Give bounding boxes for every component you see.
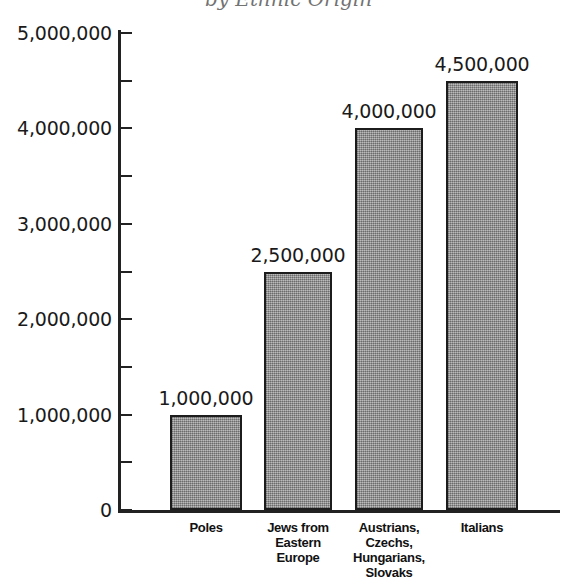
y-axis-tick-label: 1,000,000: [0, 406, 112, 425]
y-axis-major-tick: [118, 223, 132, 225]
y-axis-minor-tick: [118, 271, 132, 273]
y-axis-major-tick: [118, 509, 132, 511]
y-axis-minor-tick: [118, 80, 132, 82]
bar-group: 1,000,000: [170, 415, 242, 510]
y-axis-major-tick: [118, 414, 132, 416]
y-axis-tick-label: 3,000,000: [0, 215, 112, 234]
x-axis-line: [118, 510, 560, 513]
bar-value-label: 4,000,000: [342, 102, 437, 121]
bar-chart-figure: by Ethnic Origin 5,000,0004,000,0003,000…: [0, 0, 577, 586]
y-axis-major-tick: [118, 318, 132, 320]
bar: [264, 272, 332, 511]
x-axis-category-label-line: Czechs,: [333, 535, 445, 550]
bar-group: 4,500,000: [446, 81, 518, 510]
bar-value-label: 4,500,000: [435, 55, 530, 74]
bar: [170, 415, 242, 510]
y-axis-tick-label: 5,000,000: [0, 24, 112, 43]
bar-value-label: 1,000,000: [159, 389, 254, 408]
x-axis-category-label-line: Italians: [424, 520, 540, 535]
bar: [446, 81, 518, 510]
y-axis-tick-label: 0: [0, 501, 112, 520]
y-axis-minor-tick: [118, 175, 132, 177]
bar-group: 4,000,000: [355, 128, 423, 510]
y-axis-minor-tick: [118, 461, 132, 463]
y-axis-minor-tick: [118, 366, 132, 368]
bar-group: 2,500,000: [264, 272, 332, 511]
x-axis-category-label: Italians: [424, 520, 540, 535]
y-axis-tick-label: 2,000,000: [0, 310, 112, 329]
x-axis-category-label-line: Slovaks: [333, 565, 445, 580]
y-axis-major-tick: [118, 127, 132, 129]
x-axis-category-label-line: Hungarians,: [333, 550, 445, 565]
bar: [355, 128, 423, 510]
y-axis-labels: 5,000,0004,000,0003,000,0002,000,0001,00…: [0, 0, 112, 586]
y-axis-tick-label: 4,000,000: [0, 119, 112, 138]
bar-value-label: 2,500,000: [251, 246, 346, 265]
y-axis-major-tick: [118, 32, 132, 34]
